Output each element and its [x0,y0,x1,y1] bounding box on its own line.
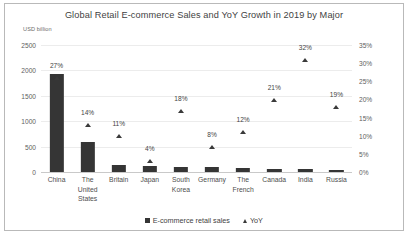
legend-item-label: YoY [250,216,263,225]
triangle-marker-icon [243,219,247,223]
y2-axis-tick-label: 10% [359,132,372,139]
y2-axis-tick-label: 30% [359,60,372,67]
y-axis-tick-label: 0 [32,169,36,176]
chart-category-column: 19% [321,45,352,172]
y2-axis-tick-label: 15% [359,114,372,121]
triangle-marker-yoy [116,134,122,138]
axis-baseline [41,172,352,173]
chart-legend: E-commerce retail salesYoY [5,216,403,225]
data-label-yoy: 8% [207,131,217,138]
y-axis-tick-label: 1000 [21,118,36,125]
data-label-yoy: 27% [50,62,63,69]
legend-item[interactable]: YoY [243,216,263,225]
y-axis-unit-label: USD billion [23,26,52,32]
chart-category-column: 27% [41,45,72,172]
bar-ecommerce-retail-sales [267,169,281,172]
data-label-yoy: 32% [299,44,312,51]
x-axis-category-labels: ChinaThe United StatesBritainJapanSouth … [41,175,352,219]
data-label-yoy: 14% [81,109,94,116]
bar-ecommerce-retail-sales [205,167,219,172]
bar-ecommerce-retail-sales [49,74,63,172]
y2-axis-tick-label: 0% [359,169,369,176]
bar-ecommerce-retail-sales [143,166,157,172]
triangle-marker-yoy [271,98,277,102]
x-axis-category-label: China [41,175,72,185]
triangle-marker-yoy [85,123,91,127]
data-label-yoy: 18% [174,95,187,102]
data-label-yoy: 11% [112,120,125,127]
x-axis-category-label: Canada [259,175,290,185]
x-axis-category-label: The United States [72,175,103,204]
triangle-marker-yoy [333,105,339,109]
square-marker-icon [145,218,150,223]
bar-ecommerce-retail-sales [112,165,126,172]
chart-title: Global Retail E-commerce Sales and YoY G… [5,10,403,20]
data-label-yoy: 4% [145,145,155,152]
bar-ecommerce-retail-sales [329,170,343,172]
triangle-marker-yoy [209,145,215,149]
y-axis-tick-label: 1500 [21,92,36,99]
x-axis-category-label: India [290,175,321,185]
data-label-yoy: 12% [237,116,250,123]
bar-ecommerce-retail-sales [174,167,188,172]
x-axis-category-label: Britain [103,175,134,185]
y2-axis-tick-label: 5% [359,150,369,157]
chart-category-column: 21% [259,45,290,172]
y2-axis-tick-label: 35% [359,42,372,49]
triangle-marker-yoy [302,58,308,62]
x-axis-category-label: Russia [321,175,352,185]
y-axis-tick-label: 2000 [21,67,36,74]
triangle-marker-yoy [178,109,184,113]
data-label-yoy: 21% [268,84,281,91]
chart-category-column: 4% [134,45,165,172]
triangle-marker-yoy [54,76,60,80]
chart-category-column: 11% [103,45,134,172]
data-label-yoy: 19% [330,91,343,98]
chart-category-column: 14% [72,45,103,172]
x-axis-category-label: Japan [134,175,165,185]
chart-container: Global Retail E-commerce Sales and YoY G… [4,3,404,231]
bar-ecommerce-retail-sales [80,142,94,172]
x-axis-category-label: The French [228,175,259,194]
legend-item-label: E-commerce retail sales [153,216,230,225]
bar-ecommerce-retail-sales [236,168,250,172]
chart-category-column: 18% [165,45,196,172]
triangle-marker-yoy [147,159,153,163]
chart-category-column: 8% [197,45,228,172]
chart-category-column: 32% [290,45,321,172]
y-axis-tick-label: 500 [25,143,36,150]
y-axis-tick-label: 2500 [21,42,36,49]
x-axis-category-label: South Korea [165,175,196,194]
legend-item[interactable]: E-commerce retail sales [145,216,230,225]
y2-axis-tick-label: 20% [359,96,372,103]
y2-axis-tick-label: 25% [359,78,372,85]
bar-ecommerce-retail-sales [298,169,312,172]
plot-area: 050010001500200025000%5%10%15%20%25%30%3… [41,45,352,172]
x-axis-category-label: Germany [197,175,228,185]
chart-category-column: 12% [228,45,259,172]
triangle-marker-yoy [240,130,246,134]
